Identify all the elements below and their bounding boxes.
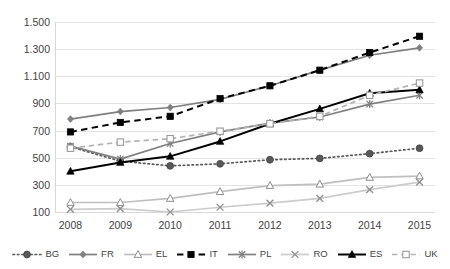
data-point — [366, 150, 373, 157]
legend-marker — [80, 251, 86, 258]
series-line — [70, 48, 419, 119]
data-point — [267, 83, 273, 89]
legend-label: FR — [101, 249, 114, 259]
legend-item-uk[interactable]: UK — [391, 249, 437, 260]
data-point — [167, 104, 173, 111]
legend-marker-cross-x-icon — [280, 249, 310, 260]
legend-item-fr[interactable]: FR — [68, 249, 114, 260]
legend-marker-filled-square-icon — [176, 249, 206, 260]
legend-label: ES — [370, 249, 383, 259]
data-point — [317, 67, 323, 73]
legend-marker-asterisk-icon — [227, 249, 257, 260]
data-point — [367, 49, 373, 55]
legend-marker — [403, 251, 409, 257]
legend-item-ro[interactable]: RO — [280, 249, 327, 260]
data-point — [217, 160, 224, 167]
data-point — [117, 119, 123, 125]
data-point — [316, 155, 323, 162]
legend-item-el[interactable]: EL — [123, 249, 168, 260]
data-point — [167, 162, 174, 169]
line-chart: 1003005007009001.1001.3001.500 200820092… — [0, 0, 450, 269]
data-point — [416, 33, 422, 39]
data-point — [416, 80, 422, 86]
data-point — [267, 156, 274, 163]
legend-marker-open-triangle-icon — [123, 249, 153, 260]
legend-marker-filled-circle-icon — [12, 249, 42, 260]
data-point — [167, 113, 173, 119]
legend-label: RO — [313, 249, 327, 259]
legend-item-es[interactable]: ES — [337, 249, 383, 260]
legend-label: IT — [209, 249, 217, 259]
legend-item-pl[interactable]: PL — [227, 249, 272, 260]
legend-marker — [24, 251, 31, 258]
series-it — [67, 33, 422, 135]
series-fr — [67, 44, 422, 122]
chart-legend: BGFRELITPLROESUK — [0, 244, 450, 264]
legend-item-bg[interactable]: BG — [12, 249, 59, 260]
data-point — [217, 128, 223, 134]
legend-marker — [188, 251, 194, 257]
data-point — [366, 92, 372, 98]
legend-item-it[interactable]: IT — [176, 249, 217, 260]
legend-marker-diamond-icon — [68, 249, 98, 260]
data-point — [317, 113, 323, 119]
data-point — [267, 121, 273, 127]
data-point — [417, 44, 423, 51]
data-point — [217, 96, 223, 102]
legend-label: EL — [156, 249, 168, 259]
legend-label: PL — [260, 249, 272, 259]
legend-label: BG — [45, 249, 59, 259]
data-point — [67, 129, 73, 135]
data-point — [117, 139, 123, 145]
legend-label: UK — [424, 249, 437, 259]
series-layer — [0, 0, 450, 269]
data-point — [167, 136, 173, 142]
data-point — [67, 145, 73, 151]
series-ro — [67, 179, 423, 216]
legend-marker-filled-triangle-icon — [337, 249, 367, 260]
data-point — [416, 145, 423, 152]
legend-marker-open-square-icon — [391, 249, 421, 260]
data-point — [67, 116, 73, 123]
data-point — [117, 108, 123, 115]
